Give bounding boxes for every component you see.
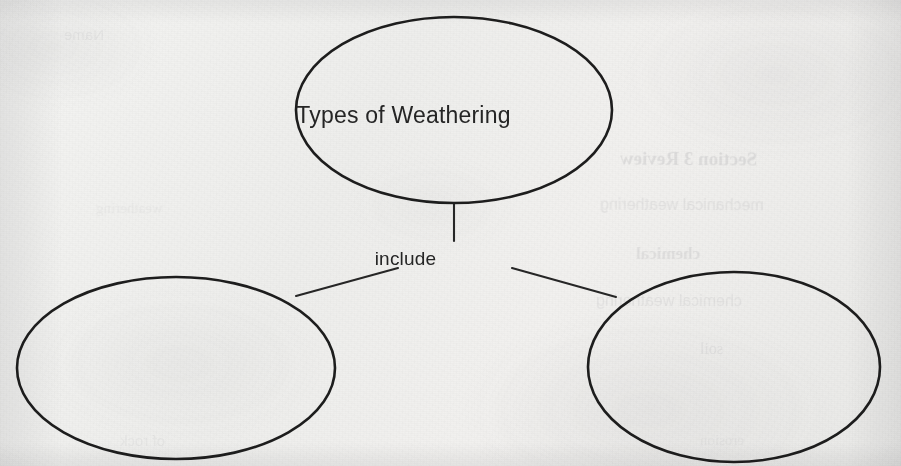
relation-label-include: include <box>0 248 901 270</box>
node-left-ellipse[interactable] <box>17 277 335 459</box>
node-right-ellipse[interactable] <box>588 272 880 462</box>
node-root-label: Types of Weathering <box>0 102 901 129</box>
relation-label-include-text: include <box>375 248 437 269</box>
concept-map-diagram <box>0 0 901 466</box>
page-canvas: Section 3 Reviewmechanical weatheringche… <box>0 0 901 466</box>
node-root-label-text: Types of Weathering <box>296 102 510 128</box>
connector-include-to-right-node <box>512 268 616 297</box>
connector-include-to-left-node <box>296 268 398 296</box>
